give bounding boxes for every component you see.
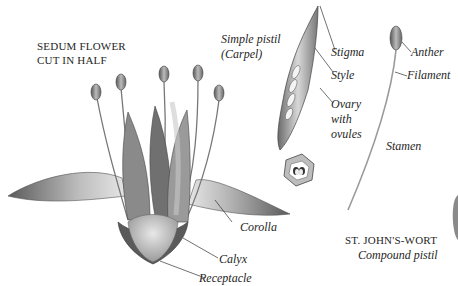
label-ovary-line2: with [331, 112, 352, 126]
st-johns-wort-subtitle: Compound pistil [358, 248, 438, 262]
pistil-title-line1: Simple pistil [221, 32, 281, 46]
label-stamen: Stamen [386, 139, 421, 153]
pistil-title-line2: (Carpel) [221, 47, 262, 61]
partial-drawing-edge [453, 195, 458, 240]
label-calyx: Calyx [219, 252, 247, 266]
label-filament: Filament [407, 68, 450, 82]
sedum-flower-drawing [8, 65, 290, 264]
label-corolla: Corolla [240, 220, 277, 234]
label-anther: Anther [411, 45, 444, 59]
sedum-title-line1: SEDUM FLOWER [37, 40, 126, 53]
label-stigma: Stigma [331, 45, 364, 59]
label-ovary-line1: Ovary [331, 97, 361, 111]
label-receptacle: Receptacle [199, 271, 252, 285]
label-ovary-line3: ovules [331, 127, 362, 141]
st-johns-wort-title: ST. JOHN'S-WORT [345, 234, 437, 247]
label-style: Style [331, 68, 354, 82]
sedum-title-line2: CUT IN HALF [37, 54, 107, 67]
simple-pistil-drawing [278, 6, 318, 186]
